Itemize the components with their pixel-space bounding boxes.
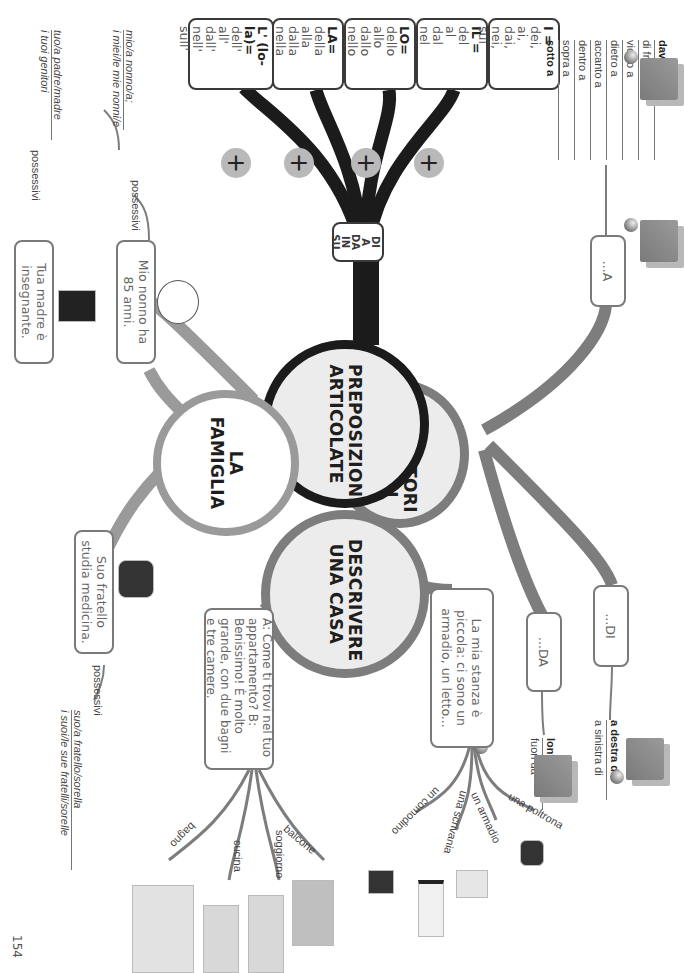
possessive-tag: possessivi xyxy=(130,180,142,231)
prep-a: A xyxy=(360,224,370,260)
article-form: dalla xyxy=(287,26,300,82)
article-form: al xyxy=(444,26,457,82)
cube-image xyxy=(640,58,678,100)
article-form: all' xyxy=(217,26,230,82)
dialog-box: A: Come ti trovi nel tuo appartamento? B… xyxy=(204,608,274,770)
plus-icon: + xyxy=(351,148,381,178)
article-form: dal xyxy=(431,26,444,82)
article-form: ai, xyxy=(516,26,529,82)
node-descrivere-una-casa: DESCRIVERE UNA CASA xyxy=(261,510,429,678)
ball-image xyxy=(624,218,638,232)
article-header: L' (lo-la)= xyxy=(243,26,269,82)
article-box-la: LA= della alla dalla nella sulla xyxy=(272,18,344,90)
room-label: cucina xyxy=(232,840,244,872)
grandpa-image xyxy=(157,280,199,324)
brother-image xyxy=(118,560,154,598)
form: mio/a nonno/a; xyxy=(123,30,136,130)
cube-image xyxy=(534,755,572,797)
simple-prepositions-box: DI A DA IN SU xyxy=(332,222,384,262)
list-item: a destra di xyxy=(606,720,622,800)
possessive-tag: possessivi xyxy=(92,665,104,716)
article-form: nell' xyxy=(191,26,204,82)
plus-icon: + xyxy=(284,148,314,178)
article-header: LO= xyxy=(398,26,411,82)
ball-image xyxy=(624,50,638,64)
list-item: sotto a xyxy=(543,40,558,160)
desk-image xyxy=(418,880,444,937)
box-label: ...A xyxy=(601,261,616,281)
article-form: dei, xyxy=(529,26,542,82)
living-room-image xyxy=(248,895,284,973)
node-label: PREPOSIZIONI ARTICOLATE xyxy=(326,364,364,484)
article-form: dai, xyxy=(503,26,516,82)
plus-icon: + xyxy=(414,148,444,178)
node-la-famiglia: LA FAMIGLIA xyxy=(153,390,299,536)
article-form: sui xyxy=(477,26,490,82)
box-label: Mio nonno ha 85 anni. xyxy=(121,250,151,354)
list-item: a sinistra di xyxy=(591,720,606,800)
plus-icon: + xyxy=(221,148,251,178)
article-form: dallo xyxy=(359,26,372,82)
room-label: soggiorno xyxy=(274,830,286,878)
list-item: sopra a xyxy=(558,40,574,160)
list-item: dietro a xyxy=(606,40,622,160)
form: i suoi/le sue fratelli/sorelle xyxy=(59,710,71,870)
article-form: nei, xyxy=(490,26,503,82)
box-label: A: Come ti trovi nel tuo appartamento? B… xyxy=(204,618,274,760)
list-item: dentro a xyxy=(574,40,590,160)
prep-su: SU xyxy=(330,224,340,260)
armchair-image xyxy=(520,840,544,866)
ball-image xyxy=(610,770,624,784)
mother-forms: tuo/a padre/madre i tuoi genitori xyxy=(39,30,64,140)
article-form: dall' xyxy=(204,26,217,82)
brother-box: Suo fratello studia medicina. xyxy=(74,530,114,654)
prep-da: DA xyxy=(350,224,360,260)
node-label: LA FAMIGLIA xyxy=(207,413,245,513)
article-form: della xyxy=(313,26,326,82)
bathroom-image xyxy=(132,885,194,973)
form: i tuoi genitori xyxy=(39,30,51,140)
mother-box: Tua madre è insegnante. xyxy=(14,240,54,364)
article-form: nella xyxy=(274,26,287,82)
balcony-image xyxy=(292,880,334,946)
article-form: nello xyxy=(346,26,359,82)
spatial-box-a: ...A xyxy=(590,235,626,307)
brother-forms: suo/a fratello/sorella i suoi/le sue fra… xyxy=(59,710,84,870)
wardrobe-image xyxy=(456,870,488,898)
form: tuo/a padre/madre xyxy=(51,30,64,140)
box-label: Tua madre è insegnante. xyxy=(19,250,49,354)
article-form: sull' xyxy=(178,26,191,82)
mother-image xyxy=(58,290,96,322)
article-box-l-apostrophe: L' (lo-la)= dell' all' dall' nell' sull' xyxy=(188,18,274,90)
spatial-box-di: ...DI xyxy=(593,585,629,667)
spatial-box-da: ...DA xyxy=(526,612,562,692)
box-label: ...DA xyxy=(537,637,552,667)
cube-image xyxy=(626,738,664,780)
box-label: ...DI xyxy=(604,613,619,638)
page-number: 154 xyxy=(10,935,24,958)
kitchen-image xyxy=(203,905,239,973)
box-label: La mia stanza è piccola: ci sono un arma… xyxy=(440,598,485,738)
cube-image xyxy=(640,220,678,262)
article-form: del xyxy=(457,26,470,82)
node-label: DESCRIVERE UNA CASA xyxy=(326,539,364,649)
article-form: dello xyxy=(385,26,398,82)
spatial-di-list: a destra di a sinistra di xyxy=(591,720,622,800)
room-description-box: La mia stanza è piccola: ci sono un arma… xyxy=(430,588,494,748)
prep-di: DI xyxy=(370,224,380,260)
grandpa-forms: mio/a nonno/a; i miei/le mie nonni/e xyxy=(111,30,136,130)
article-box-lo: LO= dello allo dallo nello sullo xyxy=(344,18,416,90)
grandpa-box: Mio nonno ha 85 anni. xyxy=(116,240,156,364)
prep-in: IN xyxy=(340,224,350,260)
box-label: Suo fratello studia medicina. xyxy=(79,540,109,644)
form: suo/a fratello/sorella xyxy=(71,710,84,870)
article-header: LA= xyxy=(326,26,339,82)
article-form: nel xyxy=(418,26,431,82)
nightstand-image xyxy=(368,870,394,894)
form: i miei/le mie nonni/e xyxy=(111,30,123,130)
possessive-tag: possessivi xyxy=(30,150,42,201)
list-item: accanto a xyxy=(590,40,606,160)
